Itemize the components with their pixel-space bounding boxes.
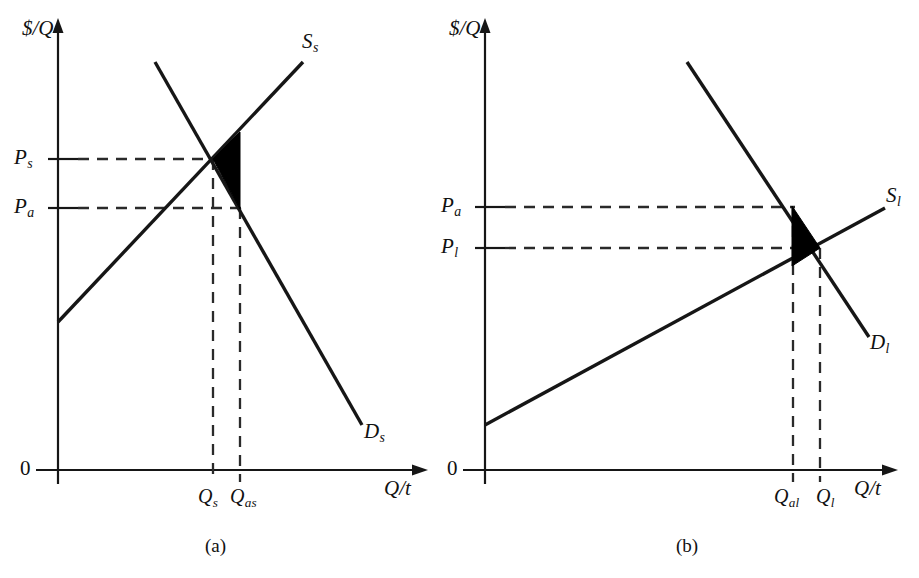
panel-b-curve-label-demand-name: D [870, 330, 885, 354]
panel-a-price-label-ps: Ps [14, 147, 33, 168]
panel-b-price-label-pl-sub: l [454, 245, 458, 260]
panel-a-price-label-ps-sub: s [27, 156, 32, 171]
panel-b-x-axis-arrow [882, 465, 898, 476]
panel-a-qty-label-qs: Qs [198, 486, 218, 506]
panel-b-price-label-pa: Pa [441, 195, 461, 216]
panel-a-graphics [36, 18, 428, 484]
panel-a-price-label-pa-name: P [14, 194, 27, 218]
panel-b-supply-curve [485, 208, 885, 425]
panel-a-y-axis-label: $/Q [22, 18, 54, 39]
panel-a-x-axis-arrow [412, 465, 428, 476]
panel-a-qty-label-qas: Qas [230, 486, 257, 506]
panel-b-price-label-pl-name: P [441, 234, 454, 258]
panel-b-y-axis-arrow [480, 18, 491, 33]
panel-a-curve-label-demand: Ds [364, 421, 385, 442]
panel-a-price-label-ps-name: P [14, 145, 27, 169]
panel-a-y-axis-arrow [53, 18, 64, 33]
panel-b-demand-curve [687, 62, 869, 337]
panel-a-qty-label-qas-name: Q [230, 485, 244, 507]
panel-a-supply-curve [58, 62, 303, 322]
panel-b-origin-label: 0 [447, 458, 458, 479]
panel-b-y-axis-label: $/Q [449, 18, 481, 39]
panel-a-caption: (a) [205, 536, 226, 555]
panel-b-qty-label-qal-name: Q [774, 485, 788, 507]
supply-demand-figure: $/Q 0 Q/t Ps Pa Qs Qas Ss Ds (a) $/Q 0 Q… [0, 0, 919, 578]
panel-b-price-label-pa-sub: a [454, 204, 461, 219]
panel-b-qty-label-qal: Qal [774, 486, 799, 506]
panel-b-qty-label-qal-sub: al [789, 495, 799, 510]
panel-a-curve-label-supply: Ss [302, 31, 318, 52]
panel-a-qty-label-qs-name: Q [198, 485, 212, 507]
panel-b-curve-label-supply-name: S [886, 183, 897, 207]
panel-a-curve-label-supply-sub: s [313, 40, 318, 55]
panel-a-price-label-pa: Pa [14, 196, 34, 217]
panel-b-graphics [463, 18, 898, 484]
panel-b-curve-label-demand-sub: l [886, 341, 890, 356]
panel-b-curve-label-demand: Dl [870, 332, 889, 353]
panel-b-curve-label-supply-sub: l [897, 194, 901, 209]
panel-b-qty-label-ql-sub: l [831, 495, 835, 510]
panel-b-x-axis-label: Q/t [854, 478, 881, 499]
panel-b-qty-label-ql-name: Q [816, 485, 830, 507]
panel-b-caption: (b) [676, 536, 698, 555]
panel-b-curve-label-supply: Sl [886, 185, 901, 206]
panel-b-price-label-pl: Pl [441, 236, 458, 257]
panel-b-qty-label-ql: Ql [816, 486, 835, 506]
panel-b-price-label-pa-name: P [441, 193, 454, 217]
panel-a-x-axis-label: Q/t [384, 478, 411, 499]
panel-a-price-label-pa-sub: a [27, 205, 34, 220]
panel-a-curve-label-demand-sub: s [380, 430, 385, 445]
panel-a-qty-label-qas-sub: as [245, 495, 257, 510]
panel-a-origin-label: 0 [20, 458, 31, 479]
panel-a-demand-curve [155, 62, 362, 425]
panel-a-curve-label-demand-name: D [364, 419, 379, 443]
panel-a-qty-label-qs-sub: s [213, 495, 218, 510]
panel-a-curve-label-supply-name: S [302, 29, 313, 53]
